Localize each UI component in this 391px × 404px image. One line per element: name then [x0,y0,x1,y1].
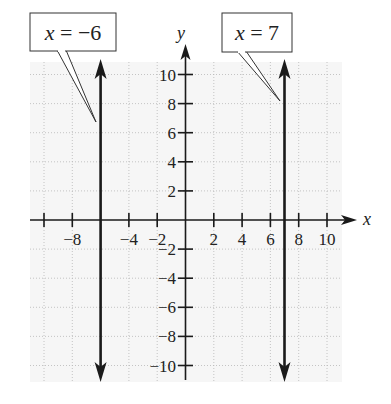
svg-text:−6: −6 [158,298,176,317]
svg-text:−4: −4 [158,269,177,288]
svg-text:10: 10 [159,66,176,85]
svg-text:−8: −8 [63,230,81,249]
svg-text:−10: −10 [149,357,176,376]
svg-text:4: 4 [238,230,247,249]
svg-text:2: 2 [168,182,177,201]
svg-text:−4: −4 [120,230,139,249]
svg-text:8: 8 [294,230,303,249]
svg-text:6: 6 [168,124,177,143]
svg-text:8: 8 [168,95,177,114]
svg-text:x = −6: x = −6 [44,20,102,45]
y-axis-label: y [175,23,185,43]
x-axis-label: x [362,209,371,229]
svg-text:x = 7: x = 7 [234,20,279,45]
svg-text:4: 4 [168,153,177,172]
svg-text:2: 2 [210,230,219,249]
coordinate-plane: x y −8 −4 −2 2 4 6 8 10 10 8 6 4 2 −2 −4… [0,0,391,404]
svg-text:−8: −8 [158,327,176,346]
svg-text:10: 10 [319,230,336,249]
svg-text:−2: −2 [158,240,176,259]
svg-text:6: 6 [266,230,275,249]
